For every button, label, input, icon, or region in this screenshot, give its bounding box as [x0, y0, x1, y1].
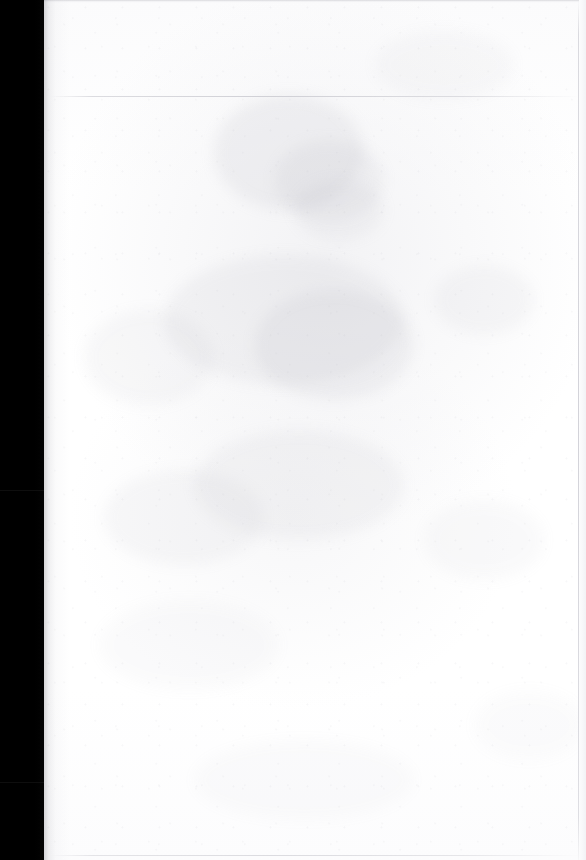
- scanned-page-canvas: Blank scanned page: [0, 0, 586, 860]
- bleed-blob: [99, 600, 279, 690]
- scanner-bed-seam-mid: [0, 490, 44, 491]
- bleed-blob: [164, 255, 404, 385]
- bleed-blob: [374, 30, 514, 100]
- scanner-bed: [0, 0, 44, 860]
- page-top-seam: [44, 0, 586, 3]
- bleed-blob: [104, 470, 264, 565]
- page-outer-margin: [579, 0, 586, 860]
- bleed-blob: [434, 265, 534, 335]
- bleed-blob: [274, 140, 384, 220]
- bleed-blob: [214, 95, 364, 210]
- page-rule-top: [50, 96, 580, 97]
- scanner-bed-seam-low: [0, 782, 44, 783]
- bleed-blob: [194, 740, 414, 820]
- bleed-through-layer: [44, 0, 586, 860]
- binding-gutter-shadow: [44, 0, 70, 860]
- bleed-blob: [194, 430, 404, 540]
- bleed-blob: [474, 690, 584, 760]
- bleed-blob: [424, 500, 544, 580]
- bleed-blob: [254, 290, 414, 400]
- paper-grain: [44, 0, 586, 860]
- bleed-blob: [294, 180, 384, 240]
- page-edge-line: [578, 0, 579, 860]
- page-sheet: [44, 0, 586, 860]
- bleed-blob: [84, 310, 214, 405]
- page-rule-bottom: [50, 855, 580, 856]
